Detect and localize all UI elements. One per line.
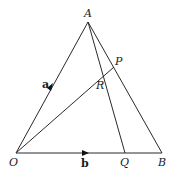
triangle-diagram: A O B Q P R a b xyxy=(0,0,175,176)
label-P: P xyxy=(114,55,123,68)
label-R: R xyxy=(95,79,104,92)
segment-AQ xyxy=(88,22,125,153)
label-vector-a: a xyxy=(42,78,49,91)
segment-OA xyxy=(16,22,88,153)
vector-b-arrow-icon xyxy=(82,150,89,156)
label-Q: Q xyxy=(120,156,129,169)
label-O: O xyxy=(9,156,18,169)
label-A: A xyxy=(83,7,92,20)
label-B: B xyxy=(157,156,166,169)
label-vector-b: b xyxy=(81,157,89,170)
